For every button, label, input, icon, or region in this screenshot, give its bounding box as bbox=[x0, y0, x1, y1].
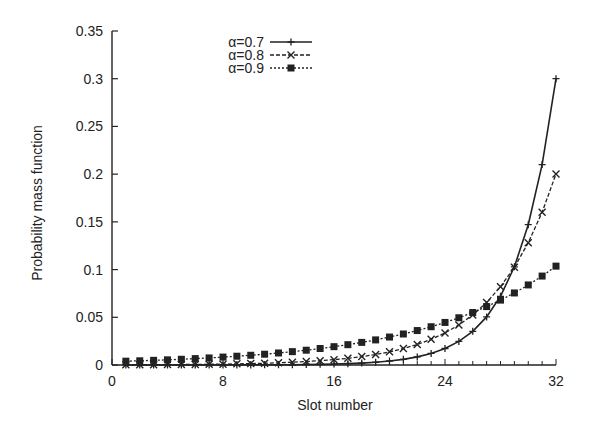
cross-marker-icon bbox=[455, 321, 462, 328]
filled-square-marker-icon bbox=[122, 358, 129, 365]
y-tick-label: 0 bbox=[95, 357, 103, 373]
plus-marker-icon bbox=[428, 350, 435, 357]
filled-square-marker-icon bbox=[414, 327, 421, 334]
filled-square-marker-icon bbox=[455, 314, 462, 321]
y-tick-label: 0.25 bbox=[76, 118, 103, 134]
y-tick-label: 0.15 bbox=[76, 214, 103, 230]
series-line bbox=[126, 266, 556, 361]
cross-marker-icon bbox=[442, 329, 449, 336]
cross-marker-icon bbox=[553, 170, 560, 177]
filled-square-marker-icon bbox=[289, 348, 296, 355]
y-tick-label: 0.05 bbox=[76, 309, 103, 325]
filled-square-marker-icon bbox=[206, 354, 213, 361]
filled-square-marker-icon bbox=[331, 343, 338, 350]
y-tick-label: 0.35 bbox=[76, 23, 103, 39]
plus-marker-icon bbox=[539, 161, 546, 168]
filled-square-marker-icon bbox=[358, 339, 365, 346]
filled-square-marker-icon bbox=[539, 273, 546, 280]
cross-marker-icon bbox=[414, 341, 421, 348]
filled-square-marker-icon bbox=[525, 281, 532, 288]
legend-item: α=0.9 bbox=[228, 60, 312, 76]
filled-square-marker-icon bbox=[344, 341, 351, 348]
filled-square-marker-icon bbox=[317, 345, 324, 352]
x-tick-label: 16 bbox=[326, 373, 342, 389]
filled-square-marker-icon bbox=[303, 347, 310, 354]
filled-square-marker-icon bbox=[233, 353, 240, 360]
filled-square-marker-icon bbox=[247, 352, 254, 359]
plus-marker-icon bbox=[386, 357, 393, 364]
filled-square-marker-icon bbox=[511, 289, 518, 296]
cross-marker-icon bbox=[525, 239, 532, 246]
cross-marker-icon bbox=[539, 209, 546, 216]
filled-square-marker-icon bbox=[372, 336, 379, 343]
filled-square-marker-icon bbox=[553, 263, 560, 270]
cross-marker-icon bbox=[497, 283, 504, 290]
series-line bbox=[126, 79, 556, 365]
filled-square-marker-icon bbox=[192, 355, 199, 362]
y-tick-label: 0.1 bbox=[84, 262, 104, 278]
plus-marker-icon bbox=[247, 361, 254, 368]
x-tick-label: 24 bbox=[437, 373, 453, 389]
series-line bbox=[126, 174, 556, 365]
plus-marker-icon bbox=[317, 361, 324, 368]
cross-marker-icon bbox=[358, 353, 365, 360]
pmf-chart: 00.050.10.150.20.250.30.3508162432 α=0.7… bbox=[0, 0, 593, 442]
plus-marker-icon bbox=[553, 75, 560, 82]
series-2 bbox=[122, 170, 559, 368]
filled-square-marker-icon bbox=[275, 349, 282, 356]
filled-square-marker-icon bbox=[178, 356, 185, 363]
filled-square-marker-icon bbox=[442, 319, 449, 326]
filled-square-marker-icon bbox=[483, 303, 490, 310]
x-tick-label: 0 bbox=[108, 373, 116, 389]
plot-series bbox=[122, 75, 559, 368]
axes: 00.050.10.150.20.250.30.3508162432 bbox=[76, 23, 564, 389]
filled-square-marker-icon bbox=[386, 334, 393, 341]
filled-square-marker-icon bbox=[497, 297, 504, 304]
filled-square-marker-icon bbox=[164, 356, 171, 363]
plus-marker-icon bbox=[233, 361, 240, 368]
x-axis-label: Slot number bbox=[297, 397, 373, 413]
cross-marker-icon bbox=[428, 336, 435, 343]
plus-marker-icon bbox=[414, 353, 421, 360]
series-3 bbox=[122, 263, 559, 365]
y-tick-label: 0.3 bbox=[84, 71, 104, 87]
filled-square-marker-icon bbox=[400, 330, 407, 337]
filled-square-marker-icon bbox=[288, 65, 295, 72]
y-axis-label: Probability mass function bbox=[29, 125, 45, 281]
x-tick-label: 32 bbox=[548, 373, 564, 389]
plus-marker-icon bbox=[525, 221, 532, 228]
series-1 bbox=[122, 75, 559, 368]
filled-square-marker-icon bbox=[150, 357, 157, 364]
plus-marker-icon bbox=[442, 345, 449, 352]
x-tick-label: 8 bbox=[219, 373, 227, 389]
plus-marker-icon bbox=[400, 356, 407, 363]
plus-marker-icon bbox=[288, 39, 295, 46]
filled-square-marker-icon bbox=[469, 309, 476, 316]
filled-square-marker-icon bbox=[220, 354, 227, 361]
legend: α=0.7α=0.8α=0.9 bbox=[228, 34, 312, 76]
filled-square-marker-icon bbox=[136, 357, 143, 364]
filled-square-marker-icon bbox=[261, 351, 268, 358]
y-tick-label: 0.2 bbox=[84, 166, 104, 182]
filled-square-marker-icon bbox=[428, 323, 435, 330]
legend-label: α=0.9 bbox=[228, 60, 264, 76]
